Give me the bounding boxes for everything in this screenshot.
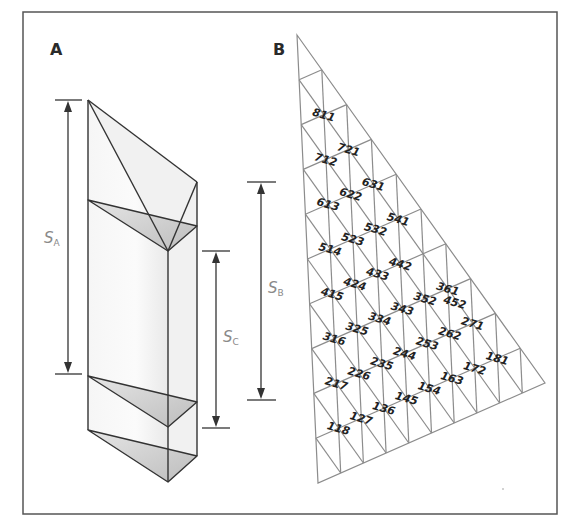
composition-label: 226 [346, 364, 372, 383]
composition-label: 118 [326, 419, 352, 438]
grid-line-apex-const [299, 70, 322, 80]
composition-label: 316 [321, 330, 347, 349]
composition-label: 415 [318, 285, 345, 304]
composition-label: 244 [392, 344, 418, 363]
composition-label: 253 [414, 334, 440, 353]
composition-label: 433 [364, 265, 391, 284]
prism-diagram [88, 100, 197, 482]
composition-label: 712 [313, 150, 339, 169]
composition-label: 352 [412, 290, 438, 309]
composition-label: 262 [437, 324, 463, 343]
composition-label: 172 [462, 359, 488, 378]
grid-line-left-const [299, 80, 522, 393]
grid-line-left-const [316, 438, 341, 473]
composition-label: 136 [371, 399, 397, 418]
dimension-label-sa: SA [44, 229, 61, 248]
composition-label: 514 [317, 240, 343, 259]
panel-label-a: A [50, 40, 63, 59]
composition-label: 721 [336, 140, 362, 159]
composition-grid [297, 35, 545, 483]
composition-label: 541 [385, 210, 411, 229]
composition-label: 235 [369, 354, 395, 373]
composition-label: 811 [311, 106, 337, 125]
composition-label: 334 [367, 310, 393, 329]
grid-line-right-const [421, 209, 432, 433]
composition-label: 622 [338, 185, 364, 204]
panel-label-b: B [273, 40, 285, 59]
grid-line-right-const [471, 279, 477, 413]
composition-label: 127 [348, 409, 374, 428]
composition-label: 181 [485, 349, 511, 368]
composition-labels: 8117217126316226135415325235144524424334… [311, 106, 510, 439]
grid-outline [297, 35, 545, 483]
dimension-label-sb: SB [268, 279, 284, 298]
composition-label: 325 [344, 320, 370, 339]
composition-label: 442 [386, 255, 413, 274]
grid-line-right-const [520, 348, 522, 393]
composition-label: 271 [460, 314, 486, 333]
composition-label: 532 [363, 220, 389, 239]
speck [502, 488, 504, 490]
composition-label: 145 [394, 389, 420, 408]
composition-label: 613 [315, 195, 341, 214]
composition-label: 523 [340, 230, 366, 249]
grid-line-right-const [322, 70, 341, 473]
composition-label: 217 [324, 374, 350, 393]
composition-label: 631 [361, 175, 387, 194]
composition-label: 154 [416, 379, 442, 398]
dimension-label-sc: SC [223, 328, 239, 347]
composition-label: 361 [435, 280, 461, 299]
composition-label: 343 [390, 300, 416, 319]
dimension-sa [55, 100, 82, 374]
composition-label: 163 [439, 369, 465, 388]
figure: A B SA SC [0, 0, 579, 524]
